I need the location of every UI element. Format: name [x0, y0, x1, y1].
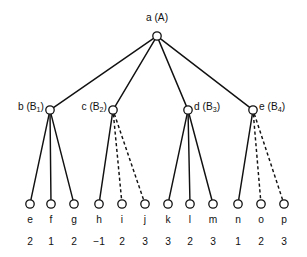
leaf-value-m: 3	[210, 236, 216, 247]
leaf-node-g[interactable]	[70, 200, 78, 208]
leaf-value-l: 2	[187, 236, 193, 247]
edge-d-l	[188, 114, 190, 200]
node-layer	[26, 32, 288, 208]
edge-c-i	[113, 114, 121, 200]
leaf-value-h: −1	[93, 236, 105, 247]
leaf-node-m[interactable]	[209, 200, 217, 208]
node-label-a: a (A)	[146, 12, 168, 23]
leaf-value-n: 1	[235, 236, 241, 247]
node-root-a[interactable]	[153, 32, 161, 40]
node-b[interactable]	[46, 106, 54, 114]
edge-d-k	[169, 114, 187, 200]
leaf-name-f: f	[50, 214, 53, 225]
leaf-node-i[interactable]	[118, 200, 126, 208]
leaf-name-n: n	[235, 214, 241, 225]
node-c[interactable]	[109, 106, 117, 114]
leaf-name-k: k	[165, 214, 171, 225]
edge-a-e	[160, 39, 249, 108]
node-label-c: c (B2)	[81, 101, 107, 114]
node-label-d: d (B3)	[194, 101, 220, 114]
node-label-e: e (B4)	[259, 101, 285, 114]
leaf-value-o: 2	[258, 236, 264, 247]
leaf-name-j: j	[143, 214, 146, 225]
edge-c-j	[114, 114, 143, 200]
leaf-name-p: p	[281, 214, 287, 225]
leaf-name-g: g	[71, 214, 77, 225]
leaf-name-m: m	[209, 214, 218, 225]
leaf-node-f[interactable]	[47, 200, 55, 208]
leaf-value-g: 2	[71, 236, 77, 247]
leaf-name-e: e	[27, 214, 33, 225]
edge-d-m	[189, 114, 212, 200]
leaf-value-f: 1	[48, 236, 54, 247]
leaf-node-l[interactable]	[186, 200, 194, 208]
leaf-node-h[interactable]	[95, 200, 103, 208]
edge-b-g	[51, 114, 73, 200]
leaf-name-i: i	[121, 214, 123, 225]
leaf-name-o: o	[258, 214, 264, 225]
node-d[interactable]	[184, 106, 192, 114]
leaf-name-l: l	[189, 214, 191, 225]
leaf-value-j: 3	[142, 236, 148, 247]
tree-diagram-canvas: a (A)b (B1)c (B2)d (B3)e (B4)e2f1g2h−1i2…	[0, 0, 307, 257]
node-e[interactable]	[249, 106, 257, 114]
leaf-name-h: h	[96, 214, 102, 225]
leaf-node-k[interactable]	[164, 200, 172, 208]
edge-layer	[31, 38, 283, 200]
edge-b-f	[50, 114, 51, 200]
leaf-node-n[interactable]	[234, 200, 242, 208]
edge-e-o	[253, 114, 260, 200]
edge-a-b	[53, 38, 153, 107]
leaf-value-e: 2	[27, 236, 33, 247]
edge-e-p	[254, 114, 282, 200]
edge-c-h	[100, 114, 113, 200]
leaf-node-p[interactable]	[280, 200, 288, 208]
label-layer: a (A)b (B1)c (B2)d (B3)e (B4)e2f1g2h−1i2…	[18, 12, 287, 247]
node-label-b: b (B1)	[18, 101, 44, 114]
leaf-value-k: 3	[165, 236, 171, 247]
edge-a-d	[159, 40, 187, 106]
leaf-node-e[interactable]	[26, 200, 34, 208]
edge-a-c	[115, 40, 155, 107]
edge-e-n	[239, 114, 253, 200]
leaf-node-o[interactable]	[257, 200, 265, 208]
leaf-value-i: 2	[119, 236, 125, 247]
leaf-value-p: 3	[281, 236, 287, 247]
leaf-node-j[interactable]	[141, 200, 149, 208]
edge-b-e	[31, 114, 49, 200]
game-tree-figure: a (A)b (B1)c (B2)d (B3)e (B4)e2f1g2h−1i2…	[0, 0, 307, 257]
